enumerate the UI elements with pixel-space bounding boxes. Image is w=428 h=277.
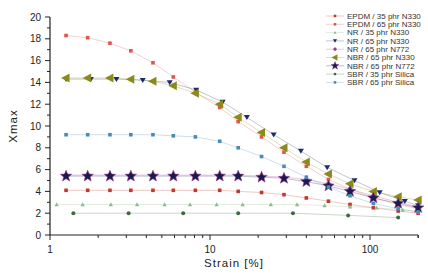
- legend-marker-icon: [331, 62, 339, 70]
- series-markers-0: [64, 189, 420, 215]
- y-tick-label: 2: [35, 208, 41, 219]
- legend-label: SBR / 65 phr Silica: [347, 78, 415, 87]
- x-tick-label: 10: [204, 244, 216, 255]
- y-tick-label: 10: [30, 121, 42, 132]
- legend-marker-icon: [332, 54, 338, 60]
- y-tick-label: 8: [35, 142, 41, 153]
- y-tick-label: 6: [35, 164, 41, 175]
- series-line: [66, 79, 418, 206]
- y-tick-label: 16: [30, 55, 42, 66]
- series-line: [66, 135, 418, 212]
- legend-marker-icon: [334, 81, 337, 84]
- y-tick-label: 14: [30, 77, 42, 88]
- legend-marker-icon: [333, 47, 337, 51]
- chart: 02468101214161820110100 Strain [%] Xmax …: [0, 0, 428, 277]
- y-tick-label: 0: [35, 230, 41, 241]
- legend-marker-icon: [334, 15, 337, 18]
- y-tick-label: 12: [30, 99, 42, 110]
- y-tick-label: 18: [30, 33, 42, 44]
- legend-marker-icon: [334, 23, 337, 26]
- y-tick-label: 20: [30, 12, 42, 23]
- x-tick-label: 1: [47, 244, 53, 255]
- series-markers-5: [61, 74, 422, 205]
- series-line: [66, 175, 418, 207]
- legend-marker-icon: [334, 73, 337, 76]
- x-tick-label: 100: [362, 244, 379, 255]
- series-markers-3: [63, 77, 421, 208]
- y-tick-label: 4: [35, 186, 41, 197]
- series-markers-8: [64, 133, 420, 214]
- x-axis-title: Strain [%]: [204, 257, 264, 269]
- y-axis-title: Xmax: [7, 109, 19, 142]
- series-line: [66, 78, 418, 200]
- legend: EPDM / 35 phr N330EPDM / 65 phr N330NR /…: [326, 12, 421, 87]
